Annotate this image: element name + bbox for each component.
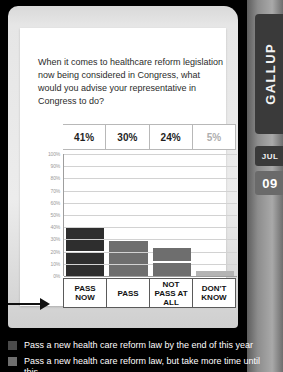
y-tick-label: 40% <box>51 224 60 230</box>
grid-line <box>64 178 237 179</box>
legend-swatch <box>8 357 17 366</box>
y-tick-label: 90% <box>51 163 60 169</box>
legend-swatch <box>8 341 17 350</box>
bar-segment <box>153 248 191 261</box>
legend-item: Pass a new health care reform law, but t… <box>8 356 276 372</box>
results-chart: 41%30%24%5% 100%90%80%70%60%50%40%30%20%… <box>36 124 236 310</box>
legend-label: Pass a new health care reform law by the… <box>24 340 253 351</box>
bar-segment <box>66 240 104 251</box>
y-tick-label: 0% <box>53 273 60 279</box>
arrow-line <box>8 303 42 305</box>
plot-area: 100%90%80%70%60%50%40%30%20%10%0% <box>36 154 236 276</box>
category-label-1: PASS <box>106 279 149 307</box>
grid-line <box>64 203 237 204</box>
plot-grid <box>63 154 236 276</box>
category-label-3: DON'T KNOW <box>192 279 235 307</box>
y-tick-label: 80% <box>51 175 60 181</box>
rail-tab-month-label: JUL <box>262 152 279 161</box>
legend-item: Pass a new health care reform law by the… <box>8 340 276 351</box>
category-label-2: NOT PASS AT ALL <box>149 279 192 307</box>
y-tick-label: 10% <box>51 261 60 267</box>
bar-segment <box>153 263 191 276</box>
percent-value-3: 5% <box>192 125 235 149</box>
bar-segment <box>109 265 147 276</box>
percent-value-1: 30% <box>105 125 148 149</box>
bar-segment <box>109 253 147 264</box>
grid-line <box>64 276 237 277</box>
question-text: When it comes to healthcare reform legis… <box>38 56 224 108</box>
bar-segment <box>196 271 234 276</box>
bar-1 <box>109 239 147 276</box>
percent-header-row: 41%30%24%5% <box>63 124 236 150</box>
grid-line <box>64 215 237 216</box>
y-tick-label: 30% <box>51 236 60 242</box>
category-label-0: PASS NOW <box>64 279 106 307</box>
y-tick-label: 100% <box>48 151 60 157</box>
rail-tab-gallup[interactable]: GALLUP <box>255 14 283 134</box>
rail-tab-gallup-label: GALLUP <box>263 43 278 105</box>
arrow-head <box>40 298 50 310</box>
percent-value-0: 41% <box>63 125 105 149</box>
category-label-row: PASS NOWPASSNOT PASS AT ALLDON'T KNOW <box>63 278 236 308</box>
chart-legend: Pass a new health care reform law by the… <box>8 340 276 372</box>
bar-2 <box>153 247 191 276</box>
bar-0 <box>66 226 104 276</box>
slide-card: When it comes to healthcare reform legis… <box>8 6 238 328</box>
y-axis-labels: 100%90%80%70%60%50%40%30%20%10%0% <box>36 154 63 276</box>
bar-segment <box>66 253 104 264</box>
bar-segment <box>66 228 104 239</box>
bar-segment <box>109 241 147 252</box>
y-tick-label: 20% <box>51 249 60 255</box>
grid-line <box>64 191 237 192</box>
side-tab-rail: GALLUP JUL 09 <box>247 0 283 372</box>
grid-line <box>64 154 237 155</box>
y-tick-label: 50% <box>51 212 60 218</box>
rail-tab-day-label: 09 <box>262 176 277 191</box>
y-tick-label: 70% <box>51 188 60 194</box>
bar-3 <box>196 270 234 276</box>
survey-slide-viewer: GALLUP JUL 09 When it comes to healthcar… <box>0 0 283 372</box>
grid-line <box>64 166 237 167</box>
percent-value-2: 24% <box>149 125 192 149</box>
bar-segment <box>66 265 104 276</box>
rail-tab-month[interactable]: JUL <box>255 146 283 166</box>
pointer-arrow-icon <box>8 298 52 310</box>
rail-tab-day[interactable]: 09 <box>255 171 283 195</box>
y-tick-label: 60% <box>51 200 60 206</box>
legend-label: Pass a new health care reform law, but t… <box>24 356 276 372</box>
